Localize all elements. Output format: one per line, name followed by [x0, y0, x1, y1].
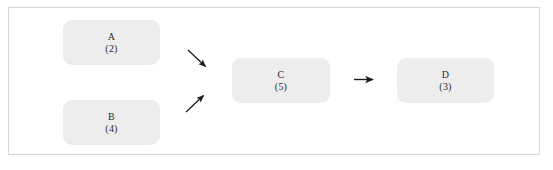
node-a[interactable]: A (2)	[63, 20, 160, 65]
node-c[interactable]: C (5)	[232, 58, 330, 103]
node-c-label: C	[278, 69, 285, 81]
node-d-value: (3)	[439, 81, 451, 93]
node-b-value: (4)	[105, 123, 117, 135]
node-c-value: (5)	[275, 81, 287, 93]
node-a-value: (2)	[105, 43, 117, 55]
node-b[interactable]: B (4)	[63, 100, 160, 145]
node-a-label: A	[108, 31, 115, 43]
diagram-canvas: A (2) B (4) C (5) D (3)	[0, 0, 553, 170]
node-b-label: B	[108, 111, 115, 123]
node-d[interactable]: D (3)	[397, 58, 494, 103]
node-d-label: D	[442, 69, 449, 81]
